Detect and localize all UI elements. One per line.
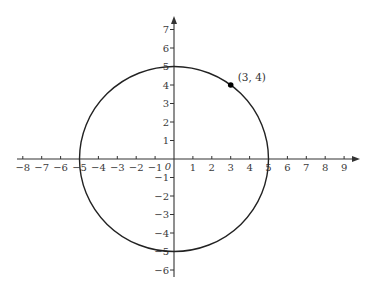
y-tick-label: 7 bbox=[163, 24, 169, 35]
x-tick-label: −6 bbox=[53, 162, 68, 173]
x-tick-label: −3 bbox=[110, 162, 125, 173]
x-tick-label: −7 bbox=[34, 162, 49, 173]
coordinate-plane: −8−7−6−5−4−3−2−1123456789−6−5−4−3−2−1123… bbox=[0, 0, 372, 283]
x-tick-label: −2 bbox=[129, 162, 144, 173]
x-tick-label: −4 bbox=[91, 162, 106, 173]
x-tick-label: 1 bbox=[190, 162, 196, 173]
y-tick-label: −3 bbox=[154, 209, 169, 220]
x-tick-label: −8 bbox=[15, 162, 30, 173]
x-tick-label: 9 bbox=[341, 162, 347, 173]
y-tick-label: −4 bbox=[154, 228, 169, 239]
x-tick-label: 2 bbox=[209, 162, 215, 173]
axis-ticks: −8−7−6−5−4−3−2−1123456789−6−5−4−3−2−1123… bbox=[15, 24, 347, 276]
y-axis-arrow-icon bbox=[171, 16, 177, 24]
y-tick-label: 4 bbox=[163, 80, 169, 91]
axes bbox=[17, 16, 360, 277]
x-tick-label: 4 bbox=[246, 162, 252, 173]
point-marker bbox=[228, 82, 234, 88]
y-tick-label: 6 bbox=[163, 43, 169, 54]
x-tick-label: 7 bbox=[303, 162, 309, 173]
y-tick-label: −1 bbox=[154, 172, 169, 183]
y-tick-label: 1 bbox=[163, 135, 169, 146]
origin-label: 0 bbox=[165, 161, 172, 172]
x-tick-label: 8 bbox=[322, 162, 328, 173]
x-tick-label: 6 bbox=[284, 162, 290, 173]
y-tick-label: −2 bbox=[154, 191, 169, 202]
y-tick-label: 3 bbox=[163, 98, 169, 109]
y-tick-label: 2 bbox=[163, 117, 169, 128]
data-points: (3, 4) bbox=[228, 71, 266, 88]
x-tick-label: 3 bbox=[228, 162, 234, 173]
point-label: (3, 4) bbox=[238, 71, 266, 83]
y-tick-label: −6 bbox=[154, 265, 169, 276]
x-axis-arrow-icon bbox=[352, 156, 360, 162]
